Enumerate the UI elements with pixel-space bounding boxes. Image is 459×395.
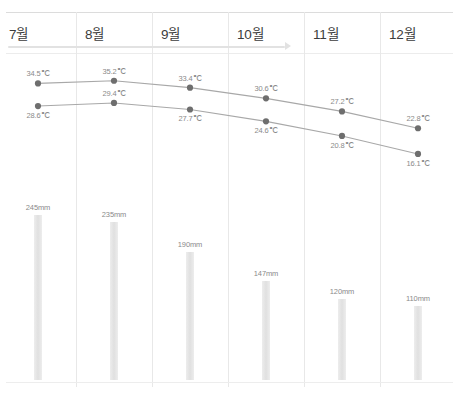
month-label-6[interactable]: 12월 (380, 14, 456, 52)
low-temperature-label-3: 27.7℃ (178, 114, 201, 123)
low-temperature-label-1: 28.6℃ (26, 111, 49, 120)
high-temperature-label-5: 27.2℃ (330, 97, 353, 106)
chart-baseline (6, 382, 453, 383)
low-temperature-label-4: 24.6℃ (254, 126, 277, 135)
timeline-arrow-icon (285, 42, 291, 50)
high-temperature-label-3: 33.4℃ (178, 74, 201, 83)
low-temperature-label-2: 29.4℃ (102, 89, 125, 98)
low-temperature-point-3[interactable] (187, 106, 193, 112)
low-temperature-label-6: 16.1℃ (406, 159, 429, 168)
precipitation-bar-2[interactable] (110, 222, 118, 380)
high-temperature-point-1[interactable] (35, 80, 41, 86)
high-temperature-point-4[interactable] (263, 95, 269, 101)
precipitation-bar-1[interactable] (34, 215, 42, 380)
precipitation-bar-3[interactable] (186, 252, 194, 380)
column-divider (380, 12, 381, 387)
low-temperature-label-5: 20.8℃ (330, 141, 353, 150)
timeline-arrow-track (8, 46, 285, 48)
high-temperature-label-4: 30.6℃ (254, 84, 277, 93)
high-temperature-label-2: 35.2℃ (102, 67, 125, 76)
precipitation-label-2: 235mm (102, 210, 127, 219)
header-bottom-rule (6, 53, 453, 54)
low-temperature-point-1[interactable] (35, 103, 41, 109)
precipitation-bar-4[interactable] (262, 281, 270, 380)
column-divider (152, 12, 153, 387)
header-top-rule (6, 12, 453, 13)
month-label-5[interactable]: 11월 (304, 14, 380, 52)
precipitation-bar-6[interactable] (414, 306, 422, 380)
high-temperature-point-3[interactable] (187, 85, 193, 91)
high-temperature-label-6: 22.8℃ (406, 114, 429, 123)
high-temperature-label-1: 34.5℃ (26, 69, 49, 78)
low-temperature-point-5[interactable] (339, 133, 345, 139)
precipitation-bar-5[interactable] (338, 299, 346, 380)
precipitation-label-4: 147mm (254, 269, 279, 278)
precipitation-label-3: 190mm (178, 240, 203, 249)
precipitation-label-5: 120mm (330, 287, 355, 296)
column-divider (76, 12, 77, 387)
high-temperature-point-6[interactable] (415, 125, 421, 131)
low-temperature-point-6[interactable] (415, 151, 421, 157)
column-divider (228, 12, 229, 387)
weather-chart: 7월8월9월10월11월12월 34.5℃35.2℃33.4℃30.6℃27.2… (0, 0, 459, 395)
low-temperature-point-2[interactable] (111, 100, 117, 106)
precipitation-label-1: 245mm (26, 203, 51, 212)
high-temperature-point-5[interactable] (339, 108, 345, 114)
low-temperature-point-4[interactable] (263, 118, 269, 124)
precipitation-label-6: 110mm (406, 294, 430, 303)
high-temperature-point-2[interactable] (111, 78, 117, 84)
column-divider (304, 12, 305, 387)
